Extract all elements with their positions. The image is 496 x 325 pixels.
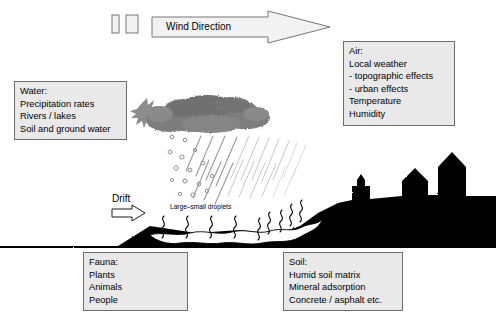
water-box-title: Water: [20, 85, 121, 98]
air-box-title: Air: [349, 45, 449, 58]
water-box-item-2: Soil and ground water [20, 123, 121, 136]
info-box-soil: Soil: Humid soil matrix Mineral adsorpti… [283, 252, 403, 311]
air-box-item-1: - topographic effects [349, 70, 449, 83]
info-box-water: Water: Precipitation rates Rivers / lake… [14, 81, 127, 140]
air-box-item-0: Local weather [349, 58, 449, 71]
soil-box-item-1: Mineral adsorption [289, 281, 397, 294]
droplets-label: Large–small droplets [170, 203, 231, 210]
info-box-fauna: Fauna: Plants Animals People [83, 252, 188, 311]
fauna-box-item-2: People [89, 294, 182, 307]
air-box-item-4: Humidity [349, 108, 449, 121]
spray-cloud [146, 95, 270, 133]
water-box-item-0: Precipitation rates [20, 98, 121, 111]
soil-box-item-2: Concrete / asphalt etc. [289, 294, 397, 307]
fauna-box-item-0: Plants [89, 269, 182, 282]
air-box-item-2: - urban effects [349, 83, 449, 96]
wind-direction-label: Wind Direction [166, 21, 231, 32]
fauna-box-title: Fauna: [89, 256, 182, 269]
soil-box-item-0: Humid soil matrix [289, 269, 397, 282]
water-box-item-1: Rivers / lakes [20, 110, 121, 123]
fauna-box-item-1: Animals [89, 281, 182, 294]
info-box-air: Air: Local weather - topographic effects… [343, 41, 455, 126]
drift-label: Drift [112, 193, 130, 204]
drift-arrow [112, 205, 145, 221]
rain-streaks [186, 136, 306, 204]
air-box-item-3: Temperature [349, 95, 449, 108]
soil-box-title: Soil: [289, 256, 397, 269]
diagram-canvas: Wind Direction Drift Large–small droplet… [0, 0, 496, 325]
